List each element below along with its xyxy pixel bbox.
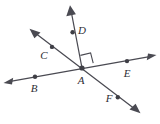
geometry-figure: A B C D E F <box>0 0 160 124</box>
label-d: D <box>77 24 86 36</box>
line-cf-segment <box>35 33 136 110</box>
line-cf-arrow-f <box>130 104 141 113</box>
label-c: C <box>40 49 48 61</box>
label-a: A <box>77 74 85 86</box>
point-d-dot <box>70 30 74 34</box>
line-be-arrow-e <box>147 53 157 60</box>
point-b-dot <box>33 75 37 79</box>
ray-ad-segment <box>71 12 82 69</box>
right-angle-icon <box>80 53 93 63</box>
label-e: E <box>123 67 131 79</box>
ray-ad-arrow-d <box>66 5 76 16</box>
point-f-dot <box>116 95 120 99</box>
point-c-dot <box>50 45 54 49</box>
label-b: B <box>31 82 38 94</box>
line-be-arrow-b <box>4 78 14 85</box>
point-e-dot <box>125 59 129 63</box>
geometry-canvas: A B C D E F <box>0 0 160 124</box>
line-cf-arrow-c <box>30 29 41 38</box>
label-f: F <box>105 92 113 104</box>
point-a-dot <box>79 65 84 70</box>
